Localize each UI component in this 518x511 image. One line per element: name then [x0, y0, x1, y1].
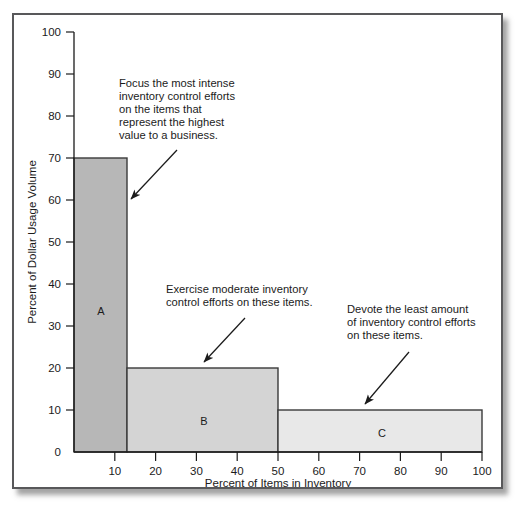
annotation-c-line-1: Devote the least amount: [347, 303, 469, 315]
x-tick-label-60: 60: [312, 465, 325, 477]
annotation-b-arrow: [204, 318, 245, 362]
annotation-a-line-4: represent the highest: [119, 116, 225, 128]
y-tick-label-100: 100: [42, 26, 61, 38]
x-tick-label-30: 30: [190, 465, 203, 477]
annotation-a-line-2: inventory control efforts: [119, 90, 235, 102]
bar-label-b: B: [200, 415, 207, 427]
x-tick-label-20: 20: [149, 465, 162, 477]
x-tick-labels-group: 10 20 30 40 50 60 70 80 90 100: [108, 465, 491, 477]
y-tick-label-80: 80: [48, 110, 61, 122]
y-tick-label-60: 60: [48, 194, 61, 206]
figure-root: A B C: [0, 0, 518, 511]
y-tick-label-30: 30: [48, 320, 61, 332]
x-ticks-group: [115, 452, 482, 461]
annotation-c-arrow: [365, 352, 409, 404]
annotation-a-line-3: on the items that: [119, 103, 203, 115]
annotation-a: Focus the most intense inventory control…: [119, 77, 235, 199]
x-tick-label-80: 80: [394, 465, 407, 477]
y-tick-label-20: 20: [48, 362, 61, 374]
x-axis-title: Percent of Items in Inventory: [205, 477, 352, 487]
y-tick-label-10: 10: [48, 404, 61, 416]
abc-inventory-bar-chart: A B C: [14, 15, 501, 487]
annotation-a-arrow: [131, 150, 177, 199]
y-tick-label-0: 0: [55, 446, 61, 458]
x-tick-label-10: 10: [108, 465, 121, 477]
y-tick-labels-group: 100 90 80 70 60 50 40 30 20 10 0: [42, 26, 61, 458]
bar-label-c: C: [378, 427, 386, 439]
bar-label-a: A: [97, 305, 105, 317]
annotation-a-line-1: Focus the most intense: [119, 77, 235, 89]
annotation-b-line-1: Exercise moderate inventory: [166, 283, 308, 295]
x-tick-label-70: 70: [353, 465, 366, 477]
y-tick-label-40: 40: [48, 278, 61, 290]
figure-frame: A B C: [12, 13, 503, 489]
annotation-a-line-5: value to a business.: [119, 129, 218, 141]
bar-b: [127, 368, 278, 452]
annotation-c-line-2: of inventory control efforts: [347, 316, 476, 328]
y-tick-label-70: 70: [48, 152, 61, 164]
annotation-c-line-3: on these items.: [347, 329, 423, 341]
x-tick-label-90: 90: [435, 465, 448, 477]
y-axis-title: Percent of Dollar Usage Volume: [26, 160, 38, 324]
y-ticks-group: [66, 32, 74, 410]
y-tick-label-50: 50: [48, 236, 61, 248]
annotation-b-line-2: control efforts on these items.: [166, 296, 313, 308]
x-tick-label-50: 50: [272, 465, 285, 477]
y-tick-label-90: 90: [48, 68, 61, 80]
annotation-c: Devote the least amount of inventory con…: [347, 303, 476, 404]
x-tick-label-40: 40: [231, 465, 244, 477]
annotation-b: Exercise moderate inventory control effo…: [166, 283, 313, 362]
x-tick-label-100: 100: [472, 465, 491, 477]
